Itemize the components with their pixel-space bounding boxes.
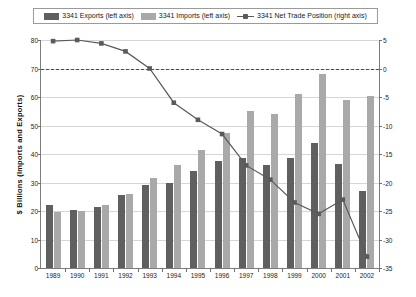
y-right-tickmark [379, 69, 382, 70]
y-right-tickmark [379, 183, 382, 184]
y-right-tick-label: -20 [383, 179, 405, 186]
y-left-tick-label: 80 [16, 37, 38, 44]
net-trade-data-point [75, 38, 80, 43]
y-left-tickmark [38, 268, 41, 269]
y-right-tick-label: 0 [383, 65, 405, 72]
y-left-tick-label: 50 [16, 122, 38, 129]
net-trade-data-point [292, 200, 297, 205]
y-left-tick-label: 10 [16, 236, 38, 243]
net-trade-data-point [99, 41, 104, 46]
chart-legend: 3341 Exports (left axis) 3341 Imports (l… [33, 8, 378, 24]
y-right-tick-label: -5 [383, 94, 405, 101]
legend-item-exports: 3341 Exports (left axis) [44, 12, 134, 20]
net-trade-data-point [51, 39, 56, 44]
legend-swatch-exports-icon [44, 13, 59, 20]
plot-area: 80706050403020100 50-5-10-15-20-25-30-35… [40, 40, 380, 269]
net-trade-data-point [147, 66, 152, 71]
y-left-tick-label: 70 [16, 65, 38, 72]
net-trade-data-point [123, 49, 128, 54]
net-trade-data-point [196, 118, 201, 123]
legend-item-net-trade: 3341 Net Trade Position (right axis) [237, 12, 367, 20]
net-trade-data-point [365, 254, 370, 259]
legend-line-marker-icon [237, 13, 254, 20]
y-right-tickmark [379, 97, 382, 98]
net-trade-data-point [316, 212, 321, 217]
net-trade-data-point [340, 197, 345, 202]
y-right-tickmark [379, 240, 382, 241]
y-right-tick-label: -25 [383, 208, 405, 215]
y-left-tick-label: 60 [16, 94, 38, 101]
legend-label-net-trade: 3341 Net Trade Position (right axis) [257, 12, 367, 20]
net-trade-data-point [268, 177, 273, 182]
y-left-tick-label: 40 [16, 151, 38, 158]
net-trade-data-point [171, 100, 176, 105]
y-right-tick-label: -35 [383, 265, 405, 272]
net-trade-data-point [244, 163, 249, 168]
y-left-tick-label: 0 [16, 265, 38, 272]
net-trade-line-series [41, 40, 379, 268]
y-right-tick-label: -15 [383, 151, 405, 158]
legend-item-imports: 3341 Imports (left axis) [141, 12, 230, 20]
y-right-tickmark [379, 126, 382, 127]
y-right-tickmark [379, 40, 382, 41]
net-trade-line-path [53, 40, 367, 257]
y-right-tickmark [379, 154, 382, 155]
net-trade-chart: 3341 Exports (left axis) 3341 Imports (l… [0, 0, 416, 297]
legend-swatch-imports-icon [141, 13, 156, 20]
legend-label-imports: 3341 Imports (left axis) [159, 12, 230, 20]
y-left-tick-label: 20 [16, 208, 38, 215]
y-right-tickmark [379, 211, 382, 212]
x-axis-tick-label: 2002 [352, 272, 382, 279]
y-right-tick-label: -10 [383, 122, 405, 129]
y-left-tick-label: 30 [16, 179, 38, 186]
legend-label-exports: 3341 Exports (left axis) [62, 12, 134, 20]
y-right-tick-label: 5 [383, 37, 405, 44]
y-right-tick-label: -30 [383, 236, 405, 243]
net-trade-data-point [220, 132, 225, 137]
x-axis-tickmark [379, 268, 380, 272]
